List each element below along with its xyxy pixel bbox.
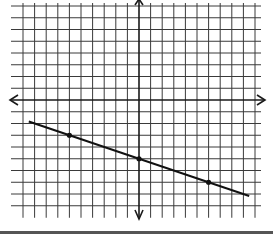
data-point — [206, 180, 211, 185]
bottom-border — [0, 231, 273, 234]
coordinate-plane — [0, 0, 273, 237]
axes — [10, 0, 265, 219]
grid-lines — [11, 3, 261, 218]
data-point — [136, 156, 141, 161]
data-point — [67, 133, 72, 138]
